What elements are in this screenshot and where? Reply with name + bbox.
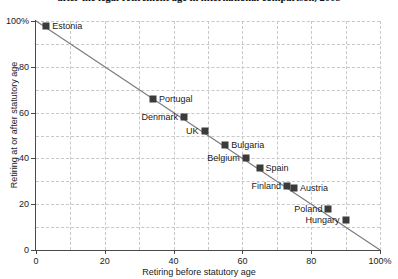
data-point-label: Bulgaria bbox=[231, 140, 264, 150]
data-point-label: Spain bbox=[266, 163, 289, 173]
x-axis-title: Retiring before statutory age bbox=[0, 267, 398, 277]
y-axis-tick bbox=[31, 21, 35, 22]
y-axis-title: Retiring at or after statutory age bbox=[9, 55, 19, 195]
data-point-label: Belgium bbox=[207, 153, 240, 163]
data-point[interactable] bbox=[242, 155, 249, 162]
data-point[interactable] bbox=[325, 205, 332, 212]
gridline-vertical bbox=[380, 21, 381, 250]
y-axis-tick-label: 80 bbox=[0, 62, 29, 72]
data-point[interactable] bbox=[180, 114, 187, 121]
data-point-label: Portugal bbox=[159, 94, 193, 104]
y-axis-tick-label: 100% bbox=[0, 16, 29, 26]
data-point[interactable] bbox=[222, 141, 229, 148]
y-axis-tick bbox=[31, 158, 35, 159]
x-axis-tick bbox=[311, 250, 312, 254]
x-axis-tick-label: 20 bbox=[100, 256, 110, 266]
y-axis-tick bbox=[31, 250, 35, 251]
gridline-horizontal bbox=[36, 181, 380, 182]
x-axis-tick bbox=[105, 250, 106, 254]
gridline-horizontal bbox=[36, 227, 380, 228]
x-axis-line bbox=[35, 250, 381, 251]
y-axis-tick-label: 60 bbox=[0, 108, 29, 118]
data-point-label: Finland bbox=[252, 181, 282, 191]
x-axis-tick bbox=[380, 250, 381, 254]
x-axis-tick bbox=[242, 250, 243, 254]
y-axis-tick bbox=[31, 113, 35, 114]
data-point-label: Denmark bbox=[141, 112, 178, 122]
chart-container: after the legal retirement age in intern… bbox=[0, 0, 398, 279]
y-axis-tick-label: 0 bbox=[0, 245, 29, 255]
data-point[interactable] bbox=[43, 22, 50, 29]
y-axis-tick bbox=[31, 204, 35, 205]
y-axis-tick-label: 20 bbox=[0, 199, 29, 209]
gridline-horizontal bbox=[36, 136, 380, 137]
data-point[interactable] bbox=[342, 217, 349, 224]
data-point-label: Hungary bbox=[306, 215, 340, 225]
data-point-label: Estonia bbox=[52, 21, 82, 31]
y-axis-tick-label: 40 bbox=[0, 153, 29, 163]
x-axis-tick-label: 60 bbox=[237, 256, 247, 266]
y-axis-tick bbox=[31, 67, 35, 68]
x-axis-tick-label: 40 bbox=[169, 256, 179, 266]
data-point-label: Austria bbox=[300, 183, 328, 193]
gridline-horizontal bbox=[36, 67, 380, 68]
gridline-horizontal bbox=[36, 21, 380, 22]
data-point[interactable] bbox=[291, 185, 298, 192]
data-point[interactable] bbox=[201, 127, 208, 134]
gridline-horizontal bbox=[36, 44, 380, 45]
x-axis-tick bbox=[174, 250, 175, 254]
data-point-label: Poland bbox=[294, 204, 322, 214]
gridline-horizontal bbox=[36, 113, 380, 114]
chart-title: after the legal retirement age in intern… bbox=[0, 0, 398, 3]
data-point-label: UK bbox=[186, 126, 199, 136]
data-point[interactable] bbox=[256, 164, 263, 171]
x-axis-tick-label: 0 bbox=[33, 256, 38, 266]
x-axis-tick-label: 80 bbox=[306, 256, 316, 266]
x-axis-tick-label: 100% bbox=[368, 256, 391, 266]
x-axis-tick bbox=[36, 250, 37, 254]
y-axis-line bbox=[35, 20, 36, 251]
gridline-horizontal bbox=[36, 90, 380, 91]
data-point[interactable] bbox=[149, 95, 156, 102]
